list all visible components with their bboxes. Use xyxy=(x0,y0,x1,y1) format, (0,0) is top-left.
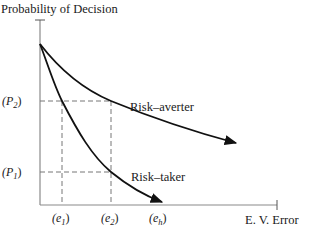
y-tick-p2: (P2) xyxy=(2,94,22,110)
x-tick-e2: (e2) xyxy=(101,211,119,227)
risk-averter-label: Risk–averter xyxy=(130,100,195,114)
guide-lines xyxy=(40,101,111,205)
x-tick-e1: (e1) xyxy=(52,211,70,227)
y-tick-p1: (P1) xyxy=(2,165,22,181)
y-axis-label: Probability of Decision xyxy=(1,2,118,16)
risk-averter-curve xyxy=(40,44,236,143)
risk-taker-label: Risk–taker xyxy=(131,170,186,184)
x-tick-eh: (eh) xyxy=(149,211,167,227)
x-axis-label: E. V. Error xyxy=(245,213,300,227)
decision-probability-diagram: Probability of Decision Risk–averter Ris… xyxy=(0,0,311,230)
